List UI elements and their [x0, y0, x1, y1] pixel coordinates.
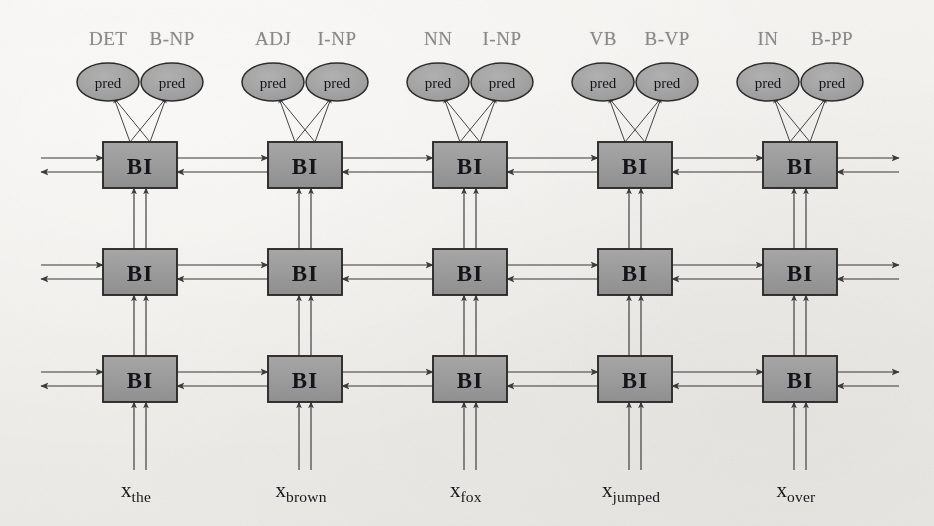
edge-pred	[279, 98, 315, 142]
input-token-label: xbrown	[276, 478, 327, 506]
bi-block: BI	[598, 142, 672, 188]
edge-pred	[774, 98, 810, 142]
token-base: x	[777, 478, 788, 502]
bi-block-label: BI	[787, 154, 813, 179]
bi-block-label: BI	[622, 261, 648, 286]
input-token-label: xfox	[450, 478, 482, 506]
bi-block-label: BI	[127, 154, 153, 179]
bi-block-label: BI	[457, 368, 483, 393]
pred-label: pred	[654, 75, 681, 91]
token-subscript: the	[132, 488, 152, 505]
pos-tag-label: VB	[590, 28, 617, 50]
bi-block-label: BI	[292, 154, 318, 179]
pred-node: pred	[141, 63, 203, 101]
bi-block: BI	[433, 356, 507, 402]
pos-tag-label: DET	[89, 28, 127, 50]
edge-pred	[114, 98, 130, 142]
pred-label: pred	[159, 75, 186, 91]
chunk-tag-label: B-NP	[150, 28, 195, 50]
edge-pred	[130, 98, 166, 142]
pred-label: pred	[489, 75, 516, 91]
bi-block-label: BI	[622, 368, 648, 393]
edge-pred	[114, 98, 150, 142]
pred-label: pred	[324, 75, 351, 91]
token-subscript: fox	[461, 488, 482, 505]
bi-block: BI	[103, 249, 177, 295]
figure-canvas: predpredpredpredpredpredpredpredpredpred…	[0, 0, 934, 526]
input-token-label: xthe	[121, 478, 151, 506]
token-base: x	[602, 478, 613, 502]
network-diagram: predpredpredpredpredpredpredpredpredpred…	[0, 0, 934, 526]
pos-tag-label: NN	[424, 28, 452, 50]
bi-block: BI	[103, 356, 177, 402]
bi-block: BI	[268, 356, 342, 402]
pred-label: pred	[425, 75, 452, 91]
edge-pred	[444, 98, 460, 142]
edge-pred	[480, 98, 496, 142]
token-subscript: over	[787, 488, 815, 505]
bi-block: BI	[268, 249, 342, 295]
pred-label: pred	[260, 75, 287, 91]
bi-block: BI	[763, 356, 837, 402]
edge-pred	[645, 98, 661, 142]
pred-node: pred	[242, 63, 304, 101]
token-base: x	[450, 478, 461, 502]
bi-block: BI	[103, 142, 177, 188]
token-base: x	[276, 478, 287, 502]
bi-block: BI	[598, 249, 672, 295]
bi-block: BI	[598, 356, 672, 402]
pred-label: pred	[590, 75, 617, 91]
token-base: x	[121, 478, 132, 502]
bi-block-label: BI	[127, 261, 153, 286]
edge-pred	[460, 98, 496, 142]
edge-pred	[774, 98, 790, 142]
chunk-tag-label: I-NP	[483, 28, 522, 50]
pred-label: pred	[819, 75, 846, 91]
edge-pred	[279, 98, 295, 142]
pred-node: pred	[407, 63, 469, 101]
pred-label: pred	[755, 75, 782, 91]
pred-node: pred	[77, 63, 139, 101]
chunk-tag-label: B-PP	[811, 28, 853, 50]
edge-pred	[810, 98, 826, 142]
bi-block-label: BI	[787, 368, 813, 393]
input-token-label: xjumped	[602, 478, 660, 506]
edge-pred	[295, 98, 331, 142]
bi-block: BI	[763, 249, 837, 295]
edge-pred	[790, 98, 826, 142]
pred-node: pred	[636, 63, 698, 101]
edge-pred	[315, 98, 331, 142]
pred-node: pred	[737, 63, 799, 101]
edge-pred	[609, 98, 625, 142]
token-subscript: brown	[286, 488, 327, 505]
edge-pred	[625, 98, 661, 142]
bi-block-label: BI	[622, 154, 648, 179]
pred-node: pred	[471, 63, 533, 101]
chunk-tag-label: I-NP	[318, 28, 357, 50]
network-nodes: predpredpredpredpredpredpredpredpredpred…	[77, 63, 863, 402]
edge-pred	[150, 98, 166, 142]
bi-block-label: BI	[292, 261, 318, 286]
bi-block-label: BI	[457, 154, 483, 179]
pos-tag-label: IN	[758, 28, 779, 50]
bi-block: BI	[268, 142, 342, 188]
bi-block: BI	[433, 249, 507, 295]
bi-block-label: BI	[457, 261, 483, 286]
input-token-label: xover	[777, 478, 816, 506]
pred-node: pred	[572, 63, 634, 101]
bi-block-label: BI	[787, 261, 813, 286]
pred-node: pred	[306, 63, 368, 101]
bi-block-label: BI	[292, 368, 318, 393]
token-subscript: jumped	[613, 488, 661, 505]
edge-pred	[444, 98, 480, 142]
pred-node: pred	[801, 63, 863, 101]
pos-tag-label: ADJ	[255, 28, 291, 50]
edge-pred	[609, 98, 645, 142]
bi-block-label: BI	[127, 368, 153, 393]
chunk-tag-label: B-VP	[645, 28, 690, 50]
pred-label: pred	[95, 75, 122, 91]
bi-block: BI	[433, 142, 507, 188]
bi-block: BI	[763, 142, 837, 188]
